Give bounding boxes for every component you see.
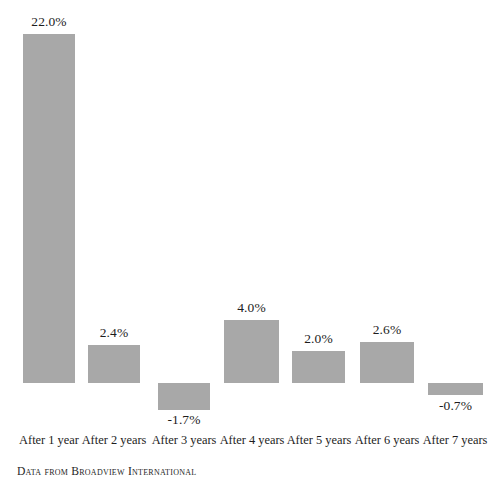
bar-value-label: 4.0% — [202, 300, 301, 315]
bar-group: 4.0% — [224, 0, 279, 432]
bar-rect — [224, 320, 279, 383]
bar-chart-figure: 22.0% 2.4% -1.7% 4.0% 2.0% 2.6% — [0, 0, 498, 493]
plot-area: 22.0% 2.4% -1.7% 4.0% 2.0% 2.6% — [0, 0, 498, 432]
bar-value-label: 2.6% — [338, 322, 436, 337]
bar-rect — [428, 383, 483, 395]
bar-value-label: 22.0% — [1, 14, 97, 29]
category-label: After 7 years — [410, 432, 498, 449]
bar-value-label: -1.7% — [136, 412, 232, 427]
bar-group: -0.7% — [428, 0, 483, 432]
bar-group: 2.4% — [88, 0, 140, 432]
bar-group: -1.7% — [158, 0, 210, 432]
bar-rect — [158, 383, 210, 410]
bar-rect — [360, 342, 414, 383]
source-note: Data from Broadview International — [17, 464, 196, 479]
bar-rect — [88, 345, 140, 383]
bar-group: 2.0% — [292, 0, 345, 432]
bar-value-label: 2.4% — [66, 325, 162, 340]
bar-group: 2.6% — [360, 0, 414, 432]
bar-value-label: -0.7% — [406, 398, 498, 413]
category-axis: After 1 year After 2 years After 3 years… — [0, 432, 498, 458]
bar-rect — [292, 351, 345, 383]
bar-group: 22.0% — [23, 0, 75, 432]
